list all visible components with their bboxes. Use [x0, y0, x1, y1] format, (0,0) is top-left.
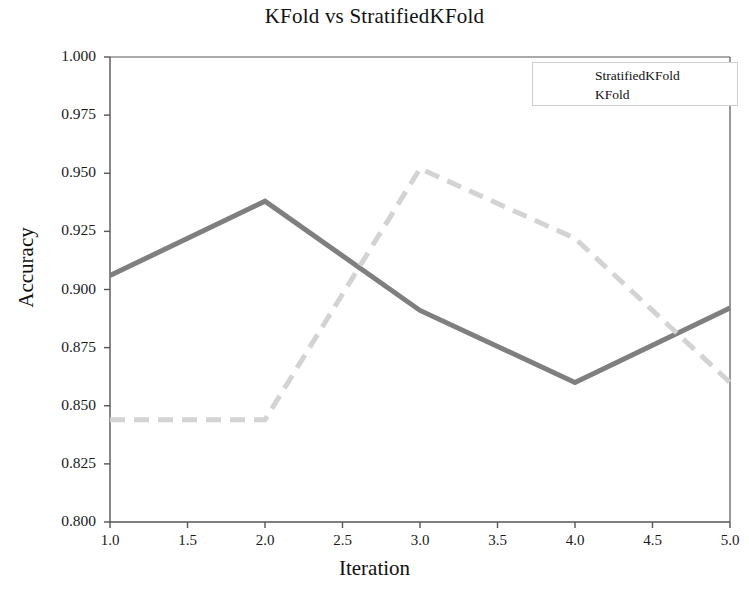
- legend-item-kfold: KFold: [541, 85, 731, 104]
- legend-label-stratifiedkfold: StratifiedKFold: [595, 68, 680, 84]
- chart-legend: StratifiedKFold KFold: [532, 62, 738, 106]
- data-series-group: [110, 169, 730, 420]
- series-line-kfold: [110, 169, 730, 420]
- y-tick-label: 0.800: [26, 512, 96, 530]
- series-line-stratifiedkfold: [110, 201, 730, 382]
- y-tick-label: 0.950: [26, 163, 96, 181]
- y-tick-label: 0.875: [26, 338, 96, 356]
- x-tick-label: 1.5: [163, 532, 213, 549]
- x-tick-label: 5.0: [705, 532, 749, 549]
- x-tick-label: 3.0: [395, 532, 445, 549]
- y-axis-title: Accuracy: [14, 198, 39, 338]
- x-tick-label: 2.0: [240, 532, 290, 549]
- y-tick-label: 0.825: [26, 454, 96, 472]
- legend-label-kfold: KFold: [595, 87, 630, 103]
- x-tick-label: 1.0: [85, 532, 135, 549]
- x-tick-label: 3.5: [473, 532, 523, 549]
- x-tick-label: 4.0: [550, 532, 600, 549]
- plot-frame: [110, 57, 730, 522]
- x-tick-label: 4.5: [628, 532, 678, 549]
- y-tick-label: 1.000: [26, 47, 96, 65]
- chart-figure: KFold vs StratifiedKFold 0.8000.8250.850…: [0, 0, 749, 601]
- x-axis-title: Iteration: [0, 556, 749, 581]
- x-tick-label: 2.5: [318, 532, 368, 549]
- y-tick-label: 0.850: [26, 396, 96, 414]
- y-tick-label: 0.975: [26, 105, 96, 123]
- legend-item-stratifiedkfold: StratifiedKFold: [541, 66, 731, 85]
